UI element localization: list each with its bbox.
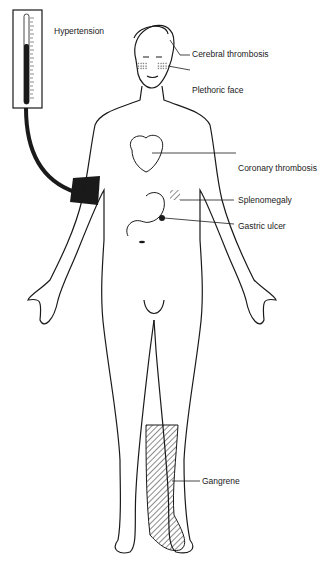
head [134, 25, 174, 88]
label-hypertension: Hypertension [54, 26, 104, 36]
leader-lines [152, 40, 236, 481]
gangrene-hatch [146, 425, 185, 550]
sphygmomanometer-icon [13, 10, 75, 192]
label-cerebral-thrombosis: Cerebral thrombosis [192, 49, 269, 59]
spleen-hatch [170, 190, 180, 200]
plethoric-cheek-left [137, 62, 147, 70]
label-plethoric-face: Plethoric face [192, 85, 244, 95]
bp-cuff-icon [70, 176, 100, 205]
label-gangrene: Gangrene [202, 476, 240, 486]
body-diagram [0, 0, 334, 563]
label-splenomegaly: Splenomegaly [238, 195, 292, 205]
stomach-icon [127, 193, 165, 236]
heart-icon [130, 135, 162, 172]
label-coronary-thrombosis: Coronary thrombosis [238, 163, 317, 173]
plethoric-cheek-right [157, 62, 167, 70]
navel [139, 241, 145, 243]
label-gastric-ulcer: Gastric ulcer [238, 221, 286, 231]
